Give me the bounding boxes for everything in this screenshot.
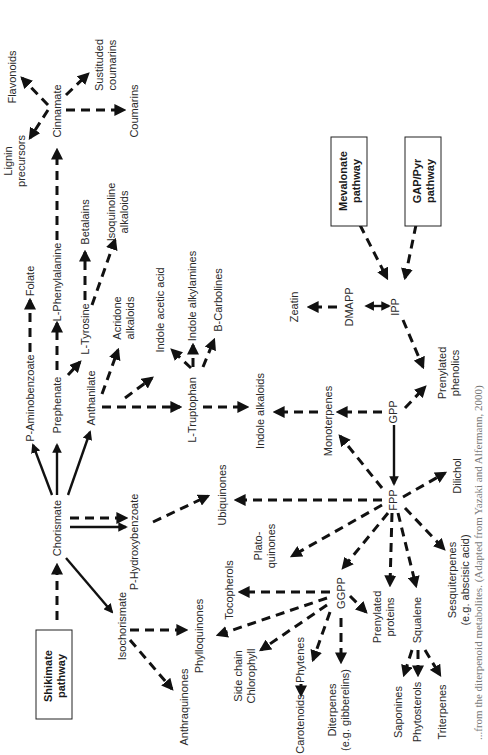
node-isochorismate: Isochorismate bbox=[116, 592, 128, 660]
node-side-chain-chlorophyll: Side chain bbox=[232, 650, 244, 701]
node-prenylated-phenolics: Prenylated bbox=[436, 347, 448, 400]
node-phytenes: Phytenes bbox=[294, 637, 306, 683]
node-isoquinoline-alkaloids: alkaloids bbox=[118, 190, 130, 233]
node-anthraquinones: Anthraquinones bbox=[178, 668, 190, 746]
node-ipp: IPP bbox=[389, 298, 401, 316]
node-coumarins: Coumarins bbox=[128, 84, 140, 138]
svg-text:Shikimate: Shikimate bbox=[42, 650, 54, 702]
node-prenylated-proteins: proteins bbox=[384, 597, 396, 637]
svg-text:GAP/Pyr: GAP/Pyr bbox=[411, 158, 423, 203]
node-l-tyrosine: L-Tyrosine bbox=[79, 303, 91, 354]
node-l-phenylalanine: L-Phenylalanine bbox=[51, 243, 63, 322]
node-carotenoids: Carotenoids bbox=[294, 694, 306, 754]
shikimate-pathway-box: Shikimate pathway bbox=[36, 630, 72, 719]
svg-text:pathway: pathway bbox=[350, 158, 362, 203]
node-prephenate: Prephenate bbox=[51, 377, 63, 434]
node-phytosterols: Phytosterols bbox=[411, 681, 423, 742]
svg-text:pathway: pathway bbox=[55, 653, 67, 698]
node-ggpp: GGPP bbox=[335, 577, 347, 609]
node-gpp: GPP bbox=[387, 400, 399, 423]
node-lignin-precursors: Lignin bbox=[2, 146, 14, 175]
gap-pyr-pathway-box: GAP/Pyr pathway bbox=[405, 137, 441, 226]
node-flavonoids: Flavonoids bbox=[6, 50, 18, 104]
node-triterpenes: Triterpenes bbox=[436, 684, 448, 740]
node-betalains: Betalains bbox=[79, 199, 91, 245]
node-anthanilate: Anthanilate bbox=[85, 370, 97, 425]
node-platoquinones: quinones bbox=[265, 523, 277, 568]
node-diterpenes: Diterpenes bbox=[326, 683, 338, 737]
svg-text:Mevalonate: Mevalonate bbox=[337, 151, 349, 211]
node-l-truptophan: L-Truptophan bbox=[186, 377, 198, 443]
node-saponines: Saponines bbox=[392, 686, 404, 738]
node-prenylated-phenolics: phenolics bbox=[449, 349, 461, 396]
node-ubiquinones: Ubiquinones bbox=[216, 464, 228, 526]
node-fpp: FPP bbox=[387, 489, 399, 510]
node-chorismate: Chorismate bbox=[51, 500, 63, 556]
node-monoterpenes: Monoterpenes bbox=[322, 385, 334, 456]
node-squalene: Squalene bbox=[411, 597, 423, 644]
node-platoquinones: Plato- bbox=[252, 531, 264, 560]
node-indole-alkylamines: Indole alkylamines bbox=[186, 250, 198, 341]
node-p-aminobenzoate: P-Aminobenzoate bbox=[24, 354, 36, 441]
node-acridone-alkaloids: alkaloids bbox=[124, 296, 136, 339]
node-diterpenes: (e.g. gibberelins) bbox=[339, 669, 351, 751]
node-sesquiterpenes: (e.g. abscisic acid) bbox=[459, 534, 471, 625]
node-dmapp: DMAPP bbox=[343, 287, 355, 326]
node-zeatin: Zeatin bbox=[288, 292, 300, 323]
node-folate: Folate bbox=[24, 266, 36, 297]
node-p-hydroxybenzoate: P-Hydroxybenzoate bbox=[128, 494, 140, 591]
figure-caption: ...from the diterpenoid metabolites. (Ad… bbox=[472, 385, 485, 740]
node-lignin-precursors: precursors bbox=[15, 135, 27, 187]
node-sesquiterpenes: Sesquiterpenes bbox=[446, 541, 458, 618]
node-indole-alkaloids: Indole alkaloids bbox=[254, 373, 266, 449]
svg-text:pathway: pathway bbox=[424, 158, 436, 203]
node-dilichol: Dilichol bbox=[451, 458, 463, 493]
node-indole-acetic-acid: Indole acetic acid bbox=[154, 268, 166, 353]
mevalonate-pathway-box: Mevalonate pathway bbox=[331, 137, 367, 226]
node-prenylated-proteins: Prenylated bbox=[371, 591, 383, 644]
node-phylloquinones: Phylloquinones bbox=[193, 598, 205, 673]
node-acridone-alkaloids: Acridone bbox=[111, 296, 123, 339]
node-cinnamate: Cinnamate bbox=[51, 84, 63, 137]
pathway-diagram: Shikimate pathway Mevalonate pathway GAP… bbox=[0, 0, 488, 755]
node-substituted-coumarins: coumarins bbox=[106, 39, 118, 90]
node-b-carbolines: B-Carbolines bbox=[212, 268, 224, 332]
node-tocopherols: Tocopherols bbox=[223, 560, 235, 620]
node-side-chain-chlorophyll: Chlorophyll bbox=[245, 648, 257, 703]
node-substituted-coumarins: Sustituded bbox=[93, 39, 105, 91]
node-isoquinoline-alkaloids: Isoquinoline bbox=[105, 183, 117, 242]
